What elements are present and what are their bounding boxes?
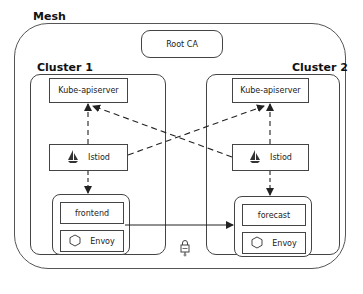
connectors-layer — [0, 0, 363, 294]
lock-icon — [181, 241, 189, 257]
c2-istiod-to-c1-apiserver — [93, 106, 232, 157]
c1-istiod-to-c2-apiserver — [128, 106, 264, 155]
